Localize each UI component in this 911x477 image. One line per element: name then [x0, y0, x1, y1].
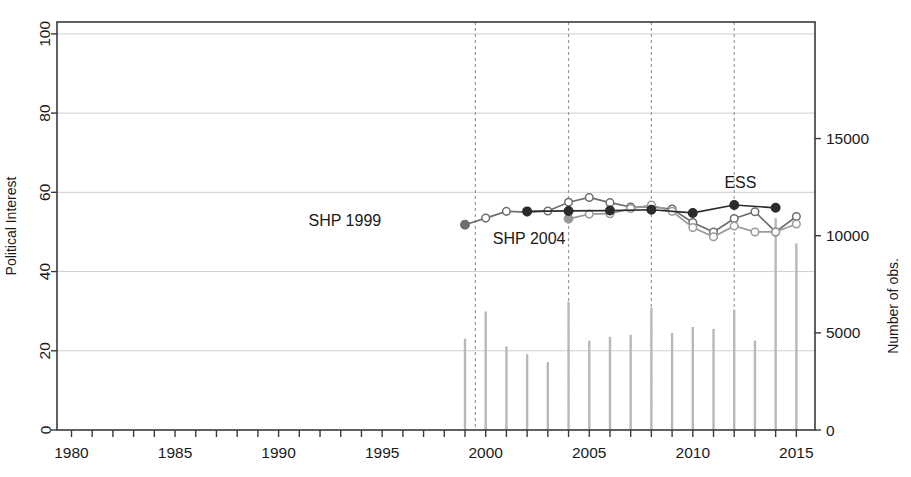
- x-axis-tick-label: 2015: [779, 444, 813, 461]
- y2-axis-tick-label: 0: [826, 422, 835, 439]
- data-point: [461, 221, 469, 229]
- data-point: [647, 206, 655, 214]
- y2-axis-tick-label: 5000: [826, 324, 861, 341]
- data-point: [710, 233, 718, 241]
- data-point: [730, 222, 738, 230]
- data-point: [730, 215, 738, 223]
- series-line: [569, 205, 797, 237]
- x-axis-tick-label: 1990: [261, 444, 296, 461]
- data-point: [585, 194, 593, 202]
- x-axis-tick-label: 1995: [365, 444, 399, 461]
- series-annotation-label: ESS: [724, 174, 756, 191]
- y-axis-tick-label: 20: [37, 342, 54, 360]
- y-axis-title: Political Interest: [3, 176, 19, 275]
- y2-axis-tick-label: 10000: [826, 227, 869, 244]
- y-axis-tick-label: 0: [37, 425, 54, 434]
- x-axis-tick-label: 2000: [468, 444, 503, 461]
- data-point: [564, 207, 572, 215]
- data-point: [606, 206, 614, 214]
- data-point: [606, 199, 614, 207]
- data-point: [793, 213, 801, 221]
- x-axis-tick-label: 1985: [158, 444, 192, 461]
- data-point: [689, 209, 697, 217]
- data-point: [751, 208, 759, 216]
- y2-axis-tick-label: 15000: [826, 130, 869, 147]
- data-point: [523, 207, 531, 215]
- chart-figure: SHP 1999SHP 2004ESS020406080100050001000…: [0, 0, 911, 477]
- y-axis-tick-label: 40: [37, 263, 54, 281]
- data-point: [771, 204, 779, 212]
- data-point: [772, 228, 780, 236]
- data-point: [689, 224, 697, 232]
- y-axis-tick-label: 100: [37, 21, 54, 47]
- data-point: [564, 215, 572, 223]
- x-axis-tick-label: 2005: [572, 444, 606, 461]
- data-point: [627, 205, 635, 213]
- data-point: [482, 214, 490, 222]
- series-annotation-label: SHP 1999: [309, 212, 382, 229]
- chart-canvas: SHP 1999SHP 2004ESS020406080100050001000…: [0, 0, 911, 477]
- y2-axis-title: Number of obs.: [885, 258, 901, 354]
- x-axis-tick-label: 1980: [54, 444, 89, 461]
- y-axis-tick-label: 80: [37, 104, 54, 122]
- series-annotation-label: SHP 2004: [493, 230, 566, 247]
- data-point: [751, 228, 759, 236]
- x-axis-tick-label: 2010: [676, 444, 711, 461]
- data-point: [793, 220, 801, 228]
- y-axis-tick-label: 60: [37, 183, 54, 201]
- data-point: [565, 198, 573, 206]
- data-point: [503, 208, 511, 216]
- data-point: [730, 201, 738, 209]
